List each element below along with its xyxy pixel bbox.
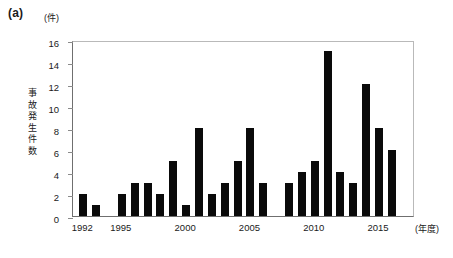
bar	[298, 172, 306, 216]
x-axis-tick-labels: 199219952000200520102015	[72, 222, 414, 238]
x-axis-tick-label: 1995	[110, 222, 131, 233]
bar	[375, 128, 383, 216]
y-axis-title-char: 件	[26, 134, 38, 146]
y-axis-title-char: 事	[26, 88, 38, 100]
y-axis-title-char: 数	[26, 146, 38, 158]
bar	[79, 194, 87, 216]
x-axis-tick-label: 2005	[239, 222, 260, 233]
y-axis-title-char: 発	[26, 111, 38, 123]
y-axis-title-char: 故	[26, 100, 38, 112]
bar	[195, 128, 203, 216]
bar	[131, 183, 139, 216]
bar	[311, 161, 319, 216]
bar	[246, 128, 254, 216]
bar	[324, 51, 332, 216]
bar	[336, 172, 344, 216]
bar	[182, 205, 190, 216]
y-axis-tick-label: 10	[48, 104, 59, 115]
y-axis-tick-label: 16	[48, 38, 59, 49]
bar	[388, 150, 396, 216]
y-axis-title-char: 生	[26, 123, 38, 135]
bar	[169, 161, 177, 216]
y-axis-tick-label: 2	[54, 192, 59, 203]
x-axis-tick-label: 2000	[175, 222, 196, 233]
x-axis-tick-label: 2015	[367, 222, 388, 233]
panel-label: (a)	[8, 6, 23, 20]
y-axis-title: 事 故 発 生 件 数	[26, 88, 38, 157]
x-axis-unit-label: (年度)	[415, 222, 439, 235]
plot-area: 0246810121416	[72, 41, 414, 217]
bar	[92, 205, 100, 216]
bar	[362, 84, 370, 216]
bar	[221, 183, 229, 216]
y-axis-tick: 0	[68, 218, 73, 219]
y-axis-tick-label: 0	[54, 214, 59, 225]
bar	[285, 183, 293, 216]
bar	[208, 194, 216, 216]
bar	[234, 161, 242, 216]
y-axis-tick-label: 14	[48, 60, 59, 71]
bar	[259, 183, 267, 216]
bar-series	[73, 42, 413, 216]
bar	[156, 194, 164, 216]
figure-panel: (a) (件) 事 故 発 生 件 数 0246810121416 199219…	[0, 0, 453, 258]
y-axis-tick-label: 12	[48, 82, 59, 93]
y-axis-tick-label: 4	[54, 170, 59, 181]
y-axis-tick-label: 6	[54, 148, 59, 159]
bar	[118, 194, 126, 216]
bar	[144, 183, 152, 216]
x-axis-tick-label: 2010	[303, 222, 324, 233]
x-axis-tick-label: 1992	[72, 222, 93, 233]
y-axis-tick-label: 8	[54, 126, 59, 137]
y-axis-unit-label: (件)	[44, 11, 59, 24]
bar	[349, 183, 357, 216]
